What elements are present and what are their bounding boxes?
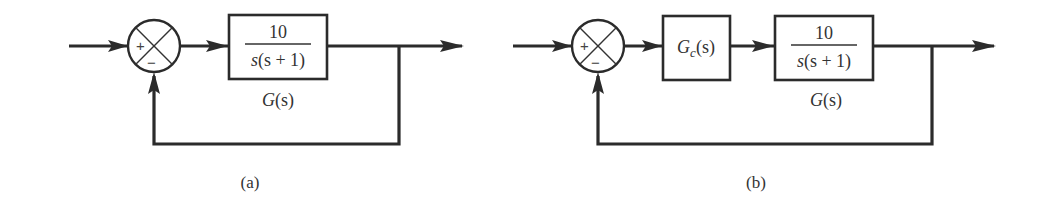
controller-block-b: Gc(s) <box>663 16 730 80</box>
summing-junction-b: + − <box>572 20 624 72</box>
minus-sign-a: − <box>147 54 156 71</box>
caption-a: (a) <box>241 173 260 192</box>
controller-label-b: Gc(s) <box>677 37 715 60</box>
diagram-b: + − Gc(s) 10 s(s + 1) G(s) (b) <box>513 16 996 192</box>
plant-label-a: G(s) <box>262 90 294 111</box>
plant-denominator-b: s(s + 1) <box>797 51 851 72</box>
summing-junction-a: + − <box>128 20 180 72</box>
minus-sign-b: − <box>591 54 600 71</box>
plant-denominator-a: s(s + 1) <box>251 50 305 71</box>
caption-b: (b) <box>746 173 766 192</box>
plant-numerator-a: 10 <box>269 22 287 42</box>
plus-sign-a: + <box>136 37 145 54</box>
diagram-a: + − 10 s(s + 1) G(s) (a) <box>69 15 464 192</box>
block-diagrams: + − 10 s(s + 1) G(s) (a) + <box>0 0 1047 206</box>
plus-sign-b: + <box>580 37 589 54</box>
plant-block-a: 10 s(s + 1) <box>229 15 327 79</box>
plant-numerator-b: 10 <box>815 23 833 43</box>
plant-block-b: 10 s(s + 1) <box>775 16 873 80</box>
plant-label-b: G(s) <box>810 90 842 111</box>
feedback-path-b <box>598 46 932 144</box>
